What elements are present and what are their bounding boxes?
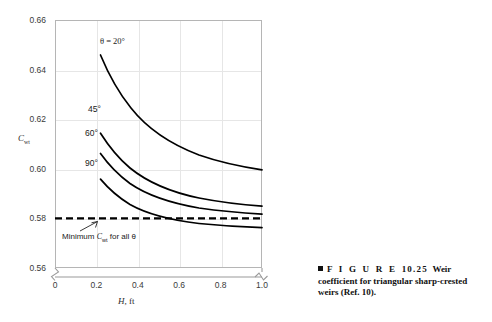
- caption-figure-word: F I G U R E: [327, 264, 397, 274]
- curve-theta-20: [101, 55, 263, 170]
- y-axis-break-mark: [52, 268, 59, 281]
- caption-figure-number: 10.25: [402, 264, 428, 274]
- chart-vector-overlay: [0, 0, 300, 322]
- caption-square-marker: [318, 266, 323, 271]
- annotation-leader-line: [80, 222, 98, 232]
- curve-45: [101, 133, 263, 206]
- chart-figure: 0.66 0.64 0.62 0.60 0.58 0.56 0 0.2 0.4 …: [0, 0, 300, 322]
- figure-caption: F I G U R E 10.25 Weir coefficient for t…: [318, 264, 484, 299]
- figure-page: 0.66 0.64 0.62 0.60 0.58 0.56 0 0.2 0.4 …: [0, 0, 492, 322]
